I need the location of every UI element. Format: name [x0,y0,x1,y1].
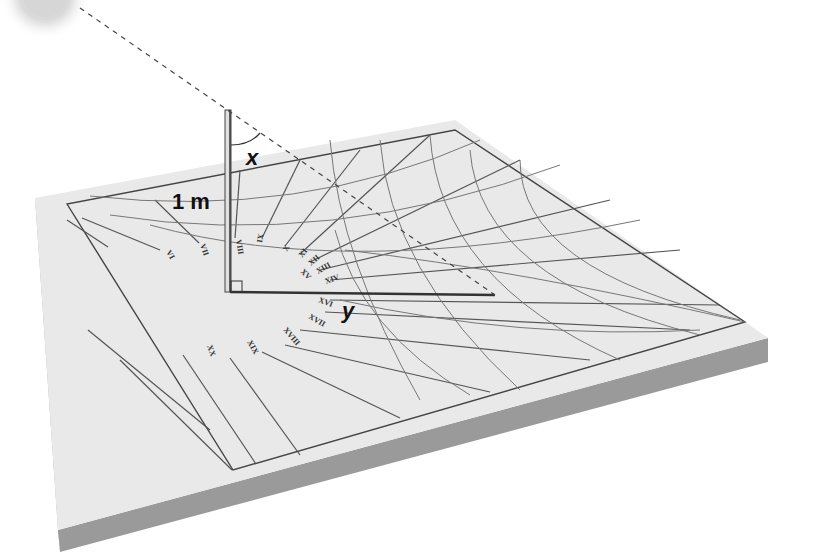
height-label: 1 m [172,189,210,214]
angle-arc [231,133,260,145]
shadow-label: y [341,298,356,323]
svg-text:IX: IX [255,233,265,244]
board-base [35,120,768,552]
sundial-diagram: VI VII VIII IX X XI XII XIII XIV XV XVI … [0,0,825,560]
sun-icon [0,0,90,40]
angle-label: x [245,145,259,170]
